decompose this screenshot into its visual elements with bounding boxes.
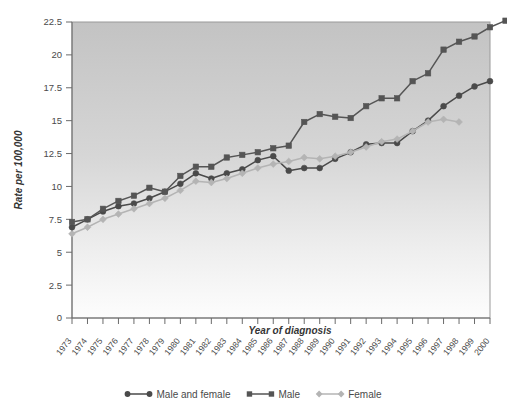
data-point-marker	[317, 111, 322, 116]
legend-label: Female	[348, 389, 382, 400]
y-tick-label: 22.5	[44, 16, 63, 27]
data-point-marker	[379, 96, 384, 101]
data-point-marker	[441, 47, 446, 52]
data-point-marker	[69, 224, 75, 230]
data-point-marker	[271, 146, 276, 151]
data-point-marker	[456, 93, 462, 99]
y-tick-label: 15	[51, 115, 62, 126]
legend-marker	[269, 391, 274, 396]
data-point-marker	[69, 219, 74, 224]
chart-figure: 02.557.51012.51517.52022.5 1973197419751…	[0, 0, 507, 413]
data-point-marker	[255, 157, 261, 163]
data-point-marker	[193, 164, 198, 169]
data-point-marker	[410, 79, 415, 84]
y-tick-label: 12.5	[44, 148, 63, 159]
data-point-marker	[301, 165, 307, 171]
data-point-marker	[178, 173, 183, 178]
legend-marker	[247, 391, 252, 396]
data-point-marker	[472, 34, 477, 39]
data-point-marker	[425, 71, 430, 76]
y-tick-label: 7.5	[49, 214, 62, 225]
data-point-marker	[255, 150, 260, 155]
data-point-marker	[85, 217, 90, 222]
data-point-marker	[487, 25, 492, 30]
data-point-marker	[116, 198, 121, 203]
data-point-marker	[162, 189, 167, 194]
y-tick-label: 2.5	[49, 280, 62, 291]
y-tick-label: 5	[57, 247, 62, 258]
data-point-marker	[472, 84, 478, 90]
legend-label: Male	[278, 389, 300, 400]
legend-label: Male and female	[157, 389, 231, 400]
legend-marker	[147, 391, 153, 397]
data-point-marker	[209, 164, 214, 169]
data-point-marker	[116, 203, 122, 209]
data-point-marker	[503, 18, 507, 23]
legend-marker	[125, 391, 131, 397]
data-point-marker	[317, 165, 323, 171]
data-point-marker	[332, 114, 337, 119]
data-point-marker	[394, 96, 399, 101]
data-point-marker	[270, 153, 276, 159]
data-point-marker	[363, 103, 368, 108]
y-tick-label: 17.5	[44, 82, 63, 93]
data-point-marker	[286, 168, 292, 174]
y-tick-label: 20	[51, 49, 62, 60]
data-point-marker	[348, 115, 353, 120]
data-point-marker	[224, 155, 229, 160]
y-tick-label: 10	[51, 181, 62, 192]
data-point-marker	[177, 181, 183, 187]
rate-per-100000-line-chart: 02.557.51012.51517.52022.5 1973197419751…	[0, 0, 507, 413]
data-point-marker	[456, 39, 461, 44]
data-point-marker	[131, 193, 136, 198]
data-point-marker	[100, 206, 105, 211]
data-point-marker	[240, 152, 245, 157]
x-axis-title: Year of diagnosis	[249, 325, 332, 336]
y-tick-label: 0	[57, 312, 62, 323]
data-point-marker	[441, 103, 447, 109]
y-axis-title: Rate per 100,000	[13, 130, 24, 209]
data-point-marker	[487, 78, 493, 84]
data-point-marker	[286, 143, 291, 148]
data-point-marker	[193, 170, 199, 176]
data-point-marker	[302, 119, 307, 124]
data-point-marker	[147, 185, 152, 190]
plot-area-background	[72, 22, 490, 318]
